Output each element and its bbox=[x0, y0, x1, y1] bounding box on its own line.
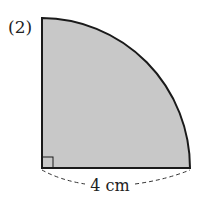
problem-number: (2) bbox=[8, 17, 32, 37]
quarter-circle-diagram: (2) 4 cm bbox=[0, 0, 215, 203]
dimension-arc-left bbox=[42, 170, 85, 184]
dimension-arc-right bbox=[135, 170, 190, 184]
quarter-circle-sector bbox=[42, 18, 190, 168]
dimension-label: 4 cm bbox=[90, 176, 129, 195]
